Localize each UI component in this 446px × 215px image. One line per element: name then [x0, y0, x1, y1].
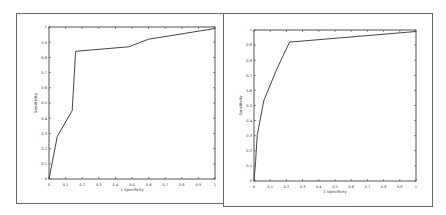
x-tick-label: 0.8: [179, 183, 185, 187]
right-roc-curve: [254, 32, 416, 182]
y-tick-label: 0.2: [41, 147, 47, 151]
left-chart-panel: 00.10.20.30.40.50.60.70.80.9100.10.20.30…: [16, 13, 224, 204]
right-plot-frame: [254, 30, 416, 181]
y-tick-label: 0.1: [246, 164, 252, 168]
x-tick-label: 0.7: [365, 185, 371, 189]
y-tick-label: 0.6: [246, 89, 252, 93]
right-chart-panel: 00.10.20.30.40.50.60.70.80.9100.10.20.30…: [223, 13, 433, 207]
y-axis-label: Sensitivity: [238, 95, 243, 116]
y-tick-label: 0.8: [246, 59, 252, 63]
x-tick-label: 0.4: [316, 185, 322, 189]
y-tick-label: 0.7: [246, 74, 252, 78]
y-tick-label: 0.2: [246, 149, 252, 153]
x-tick-label: 0.2: [284, 185, 290, 189]
x-tick-label: 0.9: [397, 185, 403, 189]
y-tick-label: 0.4: [246, 119, 252, 123]
x-tick-label: 1: [415, 185, 417, 189]
x-tick-label: 0.6: [348, 185, 354, 189]
y-tick-label: 1: [250, 28, 252, 32]
x-tick-label: 0: [48, 183, 51, 187]
x-tick-label: 0.9: [196, 183, 202, 187]
x-tick-label: 0.6: [146, 183, 152, 187]
x-tick-label: 0: [253, 185, 256, 189]
x-axis-label: 1-Specificity: [120, 187, 144, 192]
x-tick-label: 0.4: [113, 183, 119, 187]
x-tick-label: 0.3: [300, 185, 306, 189]
x-tick-label: 0.8: [381, 185, 387, 189]
y-tick-label: 0.9: [246, 43, 252, 47]
x-axis-label: 1-Specificity: [323, 189, 347, 194]
y-tick-label: 0.8: [41, 56, 47, 60]
y-tick-label: 0.7: [41, 71, 47, 75]
x-tick-label: 0.7: [162, 183, 168, 187]
x-tick-label: 0.1: [63, 183, 69, 187]
x-tick-label: 0.3: [96, 183, 102, 187]
left-roc-curve: [49, 29, 215, 180]
y-tick-label: 1: [45, 25, 47, 29]
y-tick-label: 0.9: [41, 41, 47, 45]
y-tick-label: 0.5: [41, 101, 47, 105]
y-tick-label: 0.1: [41, 162, 47, 166]
y-tick-label: 0: [250, 179, 253, 183]
y-tick-label: 0.6: [41, 86, 47, 90]
left-roc-chart: 00.10.20.30.40.50.60.70.80.9100.10.20.30…: [17, 14, 225, 205]
right-roc-chart: 00.10.20.30.40.50.60.70.80.9100.10.20.30…: [224, 14, 434, 208]
x-tick-label: 0.2: [79, 183, 85, 187]
left-plot-frame: [49, 27, 215, 179]
x-tick-label: 0.1: [267, 185, 273, 189]
y-axis-label: Sensitivity: [33, 92, 38, 113]
y-tick-label: 0.3: [246, 134, 252, 138]
y-tick-label: 0.4: [41, 117, 47, 121]
y-tick-label: 0.3: [41, 132, 47, 136]
x-tick-label: 1: [214, 183, 216, 187]
y-tick-label: 0: [45, 177, 48, 181]
y-tick-label: 0.5: [246, 104, 252, 108]
